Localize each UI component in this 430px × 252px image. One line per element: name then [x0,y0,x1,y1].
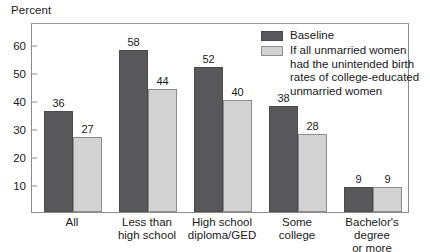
bar-baseline: 58 [119,50,148,212]
y-axis-tick-mark [32,186,37,187]
legend-item: Baseline [261,29,419,42]
x-axis-category-label: High school diploma/GED [185,216,260,242]
x-axis-category-label: Less than high school [110,216,185,242]
y-axis-tick-label: 40 [13,96,26,108]
bar-baseline: 9 [344,187,373,212]
y-axis-tick-mark [32,46,37,47]
y-axis-tick-label: 50 [13,68,26,80]
chart-legend: BaselineIf all unmarried women had the u… [261,29,419,100]
y-axis-tick-label: 60 [13,40,26,52]
legend-item: If all unmarried women had the unintende… [261,44,419,98]
bar-value-label: 36 [52,97,64,109]
y-axis-tick-mark [32,158,37,159]
bar-counterfactual: 27 [73,137,102,212]
legend-label: If all unmarried women had the unintende… [290,44,419,98]
y-axis-tick-mark [32,74,37,75]
bar-counterfactual: 28 [298,134,327,212]
y-axis-tick-label: 10 [13,180,26,192]
bar-counterfactual: 9 [373,187,402,212]
y-axis-tick-label: 30 [13,124,26,136]
bar-counterfactual: 44 [148,89,177,212]
bar-value-label: 58 [127,36,139,48]
bar-value-label: 28 [306,120,318,132]
x-axis-category-label: Bachelor's degree or more [335,216,410,252]
y-axis-unit-label: Percent [11,4,51,16]
bar-counterfactual: 40 [223,100,252,212]
legend-swatch-counterfactual [261,46,283,56]
x-axis-category-label: All [35,216,110,229]
bar-chart-figure: Percent 102030405060362758445240382899 B… [0,0,430,252]
legend-swatch-baseline [261,31,283,41]
bar-baseline: 38 [269,106,298,212]
legend-label: Baseline [290,29,334,42]
bar-value-label: 52 [202,53,214,65]
bar-value-label: 40 [231,86,243,98]
bar-value-label: 9 [355,173,361,185]
y-axis-tick-mark [32,130,37,131]
bar-value-label: 27 [81,123,93,135]
bar-value-label: 9 [384,173,390,185]
y-axis-tick-mark [32,102,37,103]
bar-baseline: 52 [194,67,223,212]
y-axis-tick-label: 20 [13,152,26,164]
bar-value-label: 44 [156,75,168,87]
x-axis-category-label: Some college [260,216,335,242]
bar-baseline: 36 [44,111,73,212]
